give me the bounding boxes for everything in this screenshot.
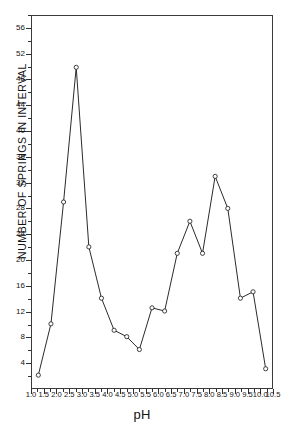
y-axis-minor-tick [28, 67, 31, 68]
y-axis-tick-label: 52 [7, 50, 25, 58]
y-axis-tick [26, 234, 31, 235]
y-axis-minor-tick [28, 144, 31, 145]
x-axis-minor-tick [152, 389, 153, 392]
y-axis-tick [26, 208, 31, 209]
y-axis-minor-tick [28, 350, 31, 351]
y-axis-tick [26, 54, 31, 55]
y-axis-tick [26, 157, 31, 158]
y-axis-tick [26, 79, 31, 80]
x-axis-minor-tick [139, 389, 140, 392]
y-axis-tick [26, 260, 31, 261]
x-axis-title: pH [0, 407, 284, 422]
x-axis-minor-tick [37, 389, 38, 392]
y-axis-tick [26, 28, 31, 29]
y-axis-tick [26, 183, 31, 184]
x-axis-minor-tick [127, 389, 128, 392]
y-axis-tick-label: 48 [7, 75, 25, 83]
x-axis-minor-tick [228, 389, 229, 392]
y-axis-tick-label: 44 [7, 101, 25, 109]
y-axis-minor-tick [28, 273, 31, 274]
axis-tick-layer: 481216202428323640444852561.01.52.02.53.… [0, 0, 284, 430]
y-axis-tick [26, 337, 31, 338]
y-axis-tick-label: 4 [7, 359, 25, 367]
x-axis-minor-tick [50, 389, 51, 392]
y-axis-tick [26, 363, 31, 364]
x-axis-minor-tick [216, 389, 217, 392]
y-axis-tick [26, 312, 31, 313]
y-axis-tick [26, 286, 31, 287]
y-axis-tick-label: 20 [7, 256, 25, 264]
x-axis-minor-tick [241, 389, 242, 392]
y-axis-minor-tick [28, 376, 31, 377]
y-axis-minor-tick [28, 92, 31, 93]
y-axis-tick-label: 36 [7, 153, 25, 161]
x-axis-minor-tick [165, 389, 166, 392]
x-axis-minor-tick [190, 389, 191, 392]
x-axis-minor-tick [76, 389, 77, 392]
x-axis-minor-tick [63, 389, 64, 392]
y-axis-tick-label: 24 [7, 230, 25, 238]
x-axis-minor-tick [114, 389, 115, 392]
y-axis-minor-tick [28, 41, 31, 42]
y-axis-minor-tick [28, 221, 31, 222]
x-axis-minor-tick [101, 389, 102, 392]
y-axis-tick-label: 40 [7, 127, 25, 135]
y-axis-tick-label: 56 [7, 24, 25, 32]
x-axis-minor-tick [254, 389, 255, 392]
x-axis-minor-tick [267, 389, 268, 392]
y-axis-minor-tick [28, 118, 31, 119]
y-axis-tick-label: 32 [7, 179, 25, 187]
chart-figure: NUMBER OF SPRINGS IN INTERVAL 4812162024… [0, 0, 284, 430]
y-axis-tick-label: 12 [7, 308, 25, 316]
y-axis-tick [26, 131, 31, 132]
y-axis-minor-tick [28, 325, 31, 326]
y-axis-tick-label: 8 [7, 333, 25, 341]
y-axis-minor-tick [28, 299, 31, 300]
y-axis-minor-tick [28, 15, 31, 16]
x-axis-minor-tick [177, 389, 178, 392]
y-axis-tick [26, 105, 31, 106]
y-axis-tick-label: 16 [7, 282, 25, 290]
x-axis-minor-tick [88, 389, 89, 392]
x-axis-minor-tick [203, 389, 204, 392]
y-axis-minor-tick [28, 170, 31, 171]
y-axis-minor-tick [28, 196, 31, 197]
y-axis-tick-label: 28 [7, 204, 25, 212]
x-axis-tick-label: 10.5 [262, 391, 284, 399]
y-axis-minor-tick [28, 247, 31, 248]
